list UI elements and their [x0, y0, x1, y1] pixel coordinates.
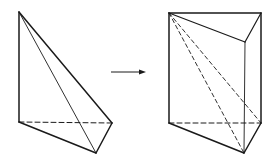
prism-top-left [169, 13, 245, 42]
tetra-base-hidden [19, 122, 112, 123]
prism-bottom-left [169, 123, 244, 153]
arrow-head-icon [139, 70, 146, 75]
triangular-prism [169, 13, 261, 153]
tetra-base-front-left [19, 122, 96, 153]
tetra-base-front-right [96, 123, 112, 153]
tetrahedron [19, 12, 112, 153]
prism-top-right [245, 13, 261, 42]
prism-diagonal-right [169, 13, 261, 123]
transform-arrow [111, 70, 146, 75]
diagram-canvas [0, 0, 273, 162]
prism-bottom-right [244, 123, 261, 153]
tetra-edge-right [19, 12, 112, 123]
prism-diagonal-front [169, 13, 244, 153]
tetra-edge-front [19, 12, 96, 153]
prism-edge-front [244, 42, 245, 153]
